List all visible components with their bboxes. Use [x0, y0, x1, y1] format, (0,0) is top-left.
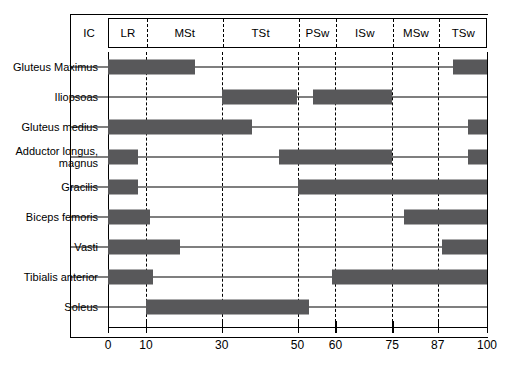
phase-divider-30: [223, 19, 224, 47]
x-tick-label-30: 30: [215, 338, 228, 352]
x-tick-label-10: 10: [139, 338, 152, 352]
phase-divider-50: [299, 19, 300, 47]
plot-area: [108, 52, 487, 322]
phase-divider-60: [336, 19, 337, 47]
x-tick-label-50: 50: [291, 338, 304, 352]
x-tick-label-0: 0: [105, 338, 112, 352]
muscle-row: [108, 112, 487, 142]
muscle-row: [108, 292, 487, 322]
activation-bar: [108, 150, 138, 165]
phase-cell-lr: LR: [109, 19, 147, 47]
gait-phase-header: LRMStTStPSwISwMSwTSw: [108, 18, 487, 48]
activation-bar: [146, 300, 309, 315]
x-tick-0: [108, 321, 109, 333]
x-tick-label-87: 87: [431, 338, 444, 352]
activation-bar: [108, 270, 153, 285]
muscle-row: [108, 202, 487, 232]
phase-cell-msw: MSw: [393, 19, 438, 47]
x-tick-30: [222, 321, 223, 333]
phase-label-ic: IC: [70, 18, 108, 48]
activation-bar: [468, 150, 487, 165]
activation-bar: [279, 150, 393, 165]
x-tick-60: [335, 321, 336, 333]
phase-cell-label: TSt: [251, 27, 269, 39]
muscle-row: [108, 232, 487, 262]
muscle-row: [108, 262, 487, 292]
x-tick-87: [438, 321, 439, 333]
phase-cell-psw: PSw: [299, 19, 337, 47]
muscle-row: [108, 52, 487, 82]
phase-cell-tst: TSt: [223, 19, 299, 47]
phase-cell-label: ISw: [355, 27, 374, 39]
activation-bar: [108, 120, 252, 135]
x-tick-50: [298, 321, 299, 333]
phase-divider-10: [147, 19, 148, 47]
x-tick-label-75: 75: [386, 338, 399, 352]
frame-top-rule: [70, 14, 488, 15]
activation-bar: [442, 240, 487, 255]
x-tick-label-60: 60: [329, 338, 342, 352]
phase-cell-tsw: TSw: [439, 19, 488, 47]
phase-cell-label: LR: [120, 27, 135, 39]
x-tick-label-100: 100: [477, 338, 497, 352]
activation-bar: [468, 120, 487, 135]
phase-cell-label: MSw: [403, 27, 429, 39]
phase-cell-isw: ISw: [336, 19, 393, 47]
phase-cell-mst: MSt: [147, 19, 223, 47]
activation-bar: [108, 180, 138, 195]
activation-bar: [222, 90, 298, 105]
activation-bar: [298, 180, 488, 195]
phase-cell-label: PSw: [305, 27, 329, 39]
activation-bar: [108, 240, 180, 255]
x-tick-75: [392, 321, 393, 333]
muscle-row: [108, 142, 487, 172]
x-tick-100: [487, 321, 488, 333]
activation-bar: [453, 60, 487, 75]
activation-bar: [108, 210, 150, 225]
activation-bar: [332, 270, 487, 285]
gridline-100: [487, 52, 488, 322]
phase-divider-75: [393, 19, 394, 47]
x-tick-10: [146, 321, 147, 333]
activation-bar: [313, 90, 393, 105]
phase-cell-label: MSt: [174, 27, 195, 39]
muscle-row: [108, 172, 487, 202]
muscle-row: [108, 82, 487, 112]
frame-bottom-rule: [70, 337, 488, 338]
gait-cycle-muscle-activation-chart: IC LRMStTStPSwISwMSwTSw Gluteus MaximusI…: [0, 0, 512, 370]
phase-divider-87: [439, 19, 440, 47]
phase-cell-label: TSw: [452, 27, 475, 39]
activation-bar: [404, 210, 487, 225]
activation-bar: [108, 60, 195, 75]
